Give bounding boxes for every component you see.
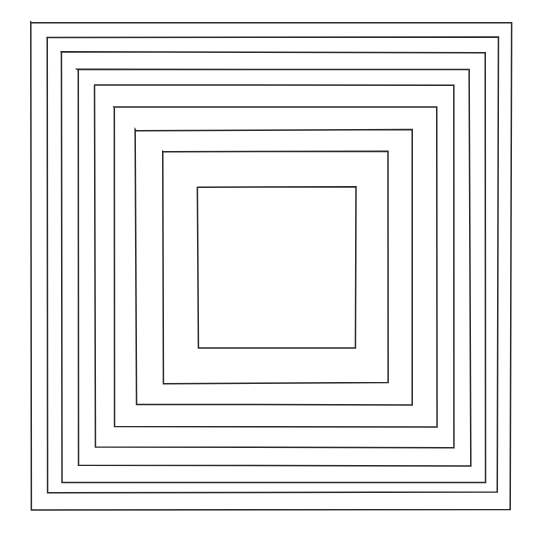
concentric-squares-figure: [0, 0, 541, 538]
figure-canvas: [0, 0, 541, 538]
figure-background: [0, 0, 541, 538]
